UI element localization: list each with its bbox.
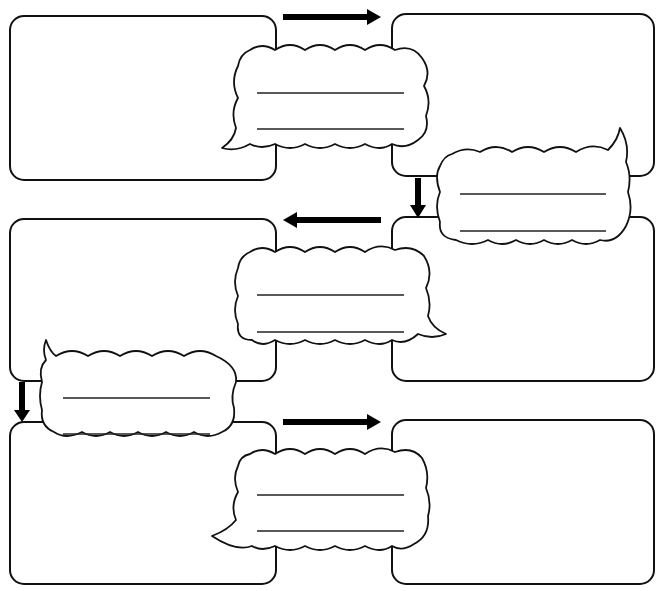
arrow-down-icon (14, 382, 30, 422)
arrow-down-icon (410, 178, 426, 218)
arrow-right-icon (283, 414, 381, 430)
arrow-left-icon (283, 212, 381, 228)
speech-bubble-5 (212, 448, 430, 550)
panel-1 (10, 16, 276, 180)
speech-bubble-4 (40, 340, 236, 436)
comic-flow-diagram (0, 0, 657, 591)
arrow-right-icon (283, 9, 381, 25)
speech-bubble-1 (222, 45, 429, 149)
panel-6 (392, 420, 654, 584)
speech-bubble-3 (235, 246, 446, 344)
